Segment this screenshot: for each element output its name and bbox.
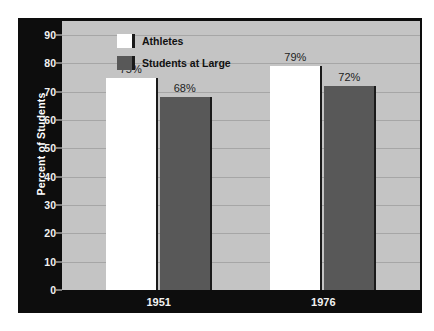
x-tick-label-1976: 1976 — [311, 296, 335, 308]
plot-area: Athletes Students at Large 75%68%79%72% — [62, 21, 420, 290]
y-tick-label: 20 — [44, 227, 56, 239]
y-tick-label: 90 — [44, 29, 56, 41]
y-tick-label: 10 — [44, 256, 56, 268]
legend-item-students-at-large: Students at Large — [117, 55, 231, 71]
legend-label-students-at-large: Students at Large — [142, 57, 231, 69]
bar-value-label: 68% — [160, 82, 210, 94]
gridline — [62, 35, 420, 36]
bar-chart-figure: Percent of Students 0102030405060708090 … — [18, 18, 422, 313]
chart-legend: Athletes Students at Large — [117, 33, 231, 77]
bar-value-label: 79% — [270, 51, 320, 63]
bar-1951-athletes: 75% — [106, 78, 158, 290]
x-tick-label-1951: 1951 — [146, 296, 170, 308]
y-tick-label: 30 — [44, 199, 56, 211]
legend-label-athletes: Athletes — [142, 35, 183, 47]
y-tick-label: 60 — [44, 114, 56, 126]
legend-item-athletes: Athletes — [117, 33, 231, 49]
bar-1951-students-at-large: 68% — [160, 97, 212, 290]
y-tick-label: 40 — [44, 171, 56, 183]
bar-value-label: 72% — [324, 71, 374, 83]
y-tick-label: 80 — [44, 57, 56, 69]
y-axis: 0102030405060708090 — [18, 18, 62, 313]
x-axis: 19511976 — [62, 290, 420, 313]
bar-1976-students-at-large: 72% — [324, 86, 376, 290]
bar-1976-athletes: 79% — [270, 66, 322, 290]
y-tick-label: 50 — [44, 142, 56, 154]
legend-swatch-students-at-large — [117, 56, 135, 70]
legend-swatch-athletes — [117, 34, 135, 48]
y-tick-label: 70 — [44, 86, 56, 98]
